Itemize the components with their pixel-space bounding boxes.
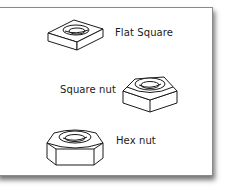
diagram-canvas: Flat Square Square nut [0,0,227,193]
hex-nut-label: Hex nut [116,135,156,146]
flat-square-label: Flat Square [115,27,173,38]
square-nut-label: Square nut [60,84,116,95]
hex-nut-icon [44,127,106,167]
square-nut-icon [121,74,179,114]
flat-square-nut-icon [46,19,106,52]
